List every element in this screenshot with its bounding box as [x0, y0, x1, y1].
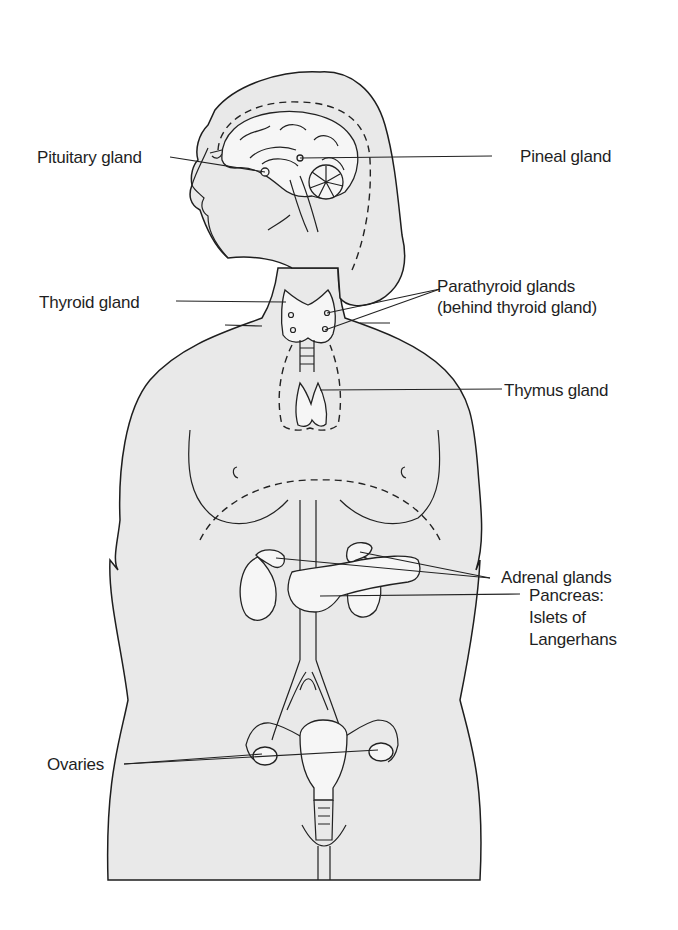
label-thyroid-gland: Thyroid gland: [39, 292, 139, 313]
label-parathyroid-glands: Parathyroid glands: [437, 276, 575, 297]
label-pineal-gland: Pineal gland: [520, 146, 611, 167]
label-ovaries: Ovaries: [47, 754, 104, 775]
label-thymus-gland: Thymus gland: [504, 380, 608, 401]
label-langerhans: Langerhans: [529, 629, 617, 650]
label-pancreas: Pancreas:: [529, 585, 604, 606]
label-islets-of: Islets of: [529, 607, 586, 628]
ovary-right: [369, 743, 393, 761]
label-pituitary-gland: Pituitary gland: [37, 147, 142, 168]
endocrine-diagram: [0, 0, 678, 930]
label-parathyroid-note: (behind thyroid gland): [437, 297, 597, 318]
